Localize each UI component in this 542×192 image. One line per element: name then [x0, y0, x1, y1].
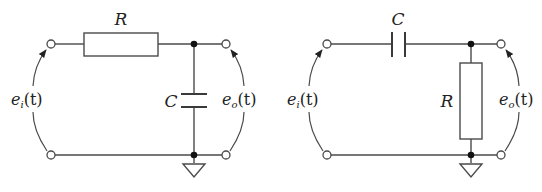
- output-terminal-bottom: [497, 151, 505, 159]
- output-arrow-icon: [506, 50, 519, 86]
- capacitor-label: C: [164, 91, 177, 111]
- output-arc-lower: [505, 112, 519, 151]
- output-voltage-label: eo(t): [499, 90, 533, 110]
- input-terminal-top: [323, 40, 331, 48]
- input-arc-lower: [33, 112, 47, 151]
- ground-icon: [183, 164, 205, 177]
- junction-dot-bottom: [468, 152, 475, 159]
- high-pass-circuit: C R ei(t) eo(t): [287, 9, 533, 177]
- junction-dot-top: [468, 41, 475, 48]
- low-pass-circuit: R C ei(t) eo(t): [11, 9, 256, 177]
- input-terminal-bottom: [47, 151, 55, 159]
- output-arrow-icon: [231, 50, 244, 86]
- input-arrow-icon: [309, 50, 322, 86]
- input-terminal-bottom: [323, 151, 331, 159]
- junction-dot-bottom: [191, 152, 198, 159]
- input-arc-lower: [309, 112, 323, 151]
- output-terminal-top: [222, 40, 230, 48]
- input-arrow-icon: [33, 50, 46, 86]
- junction-dot-top: [191, 41, 198, 48]
- ground-icon: [460, 164, 482, 177]
- rc-circuits-diagram: R C ei(t) eo(t) C: [0, 0, 542, 192]
- input-voltage-label: ei(t): [287, 90, 319, 110]
- series-resistor: [84, 33, 158, 56]
- output-terminal-bottom: [222, 151, 230, 159]
- capacitor-label: C: [391, 9, 404, 29]
- output-arc-lower: [230, 112, 244, 151]
- output-terminal-top: [497, 40, 505, 48]
- resistor-label: R: [440, 91, 454, 111]
- input-terminal-top: [47, 40, 55, 48]
- input-voltage-label: ei(t): [11, 90, 43, 110]
- resistor-label: R: [114, 9, 128, 29]
- shunt-resistor: [460, 63, 482, 139]
- output-voltage-label: eo(t): [222, 90, 256, 110]
